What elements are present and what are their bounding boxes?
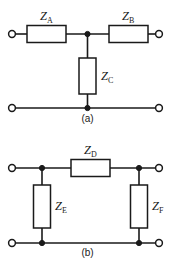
circuit-a-terminal-in-bottom[interactable] — [9, 105, 16, 112]
component-za-box — [27, 26, 66, 43]
label-zd-subscript: D — [91, 150, 97, 159]
component-ze-box — [34, 185, 51, 228]
circuit-b-node-bottom-right — [136, 240, 141, 245]
circuit-a-terminal-out-bottom[interactable] — [156, 105, 163, 112]
circuit-b-node-top-left — [39, 165, 44, 170]
circuit-b-terminal-in-top[interactable] — [9, 165, 16, 172]
circuit-a-terminal-out-top[interactable] — [156, 31, 163, 38]
label-ze-subscript: E — [62, 206, 67, 215]
circuit-a-node-top-mid — [85, 31, 90, 36]
circuit-b-terminal-out-bottom[interactable] — [156, 240, 163, 247]
circuit-a: ZA ZB ZC (a) — [9, 9, 163, 124]
circuit-a-node-bottom-mid — [85, 105, 90, 110]
label-zf-subscript: F — [159, 206, 164, 215]
circuit-b-terminal-in-bottom[interactable] — [9, 240, 16, 247]
label-za: ZA — [40, 9, 53, 25]
circuit-b-node-top-right — [136, 165, 141, 170]
circuit-b: ZD ZE ZF (b) — [9, 143, 164, 258]
label-zd: ZD — [84, 143, 97, 159]
label-zb: ZB — [122, 9, 134, 25]
circuit-b-terminal-out-top[interactable] — [156, 165, 163, 172]
label-za-subscript: A — [47, 16, 53, 25]
label-zf: ZF — [152, 199, 164, 215]
circuit-b-node-bottom-left — [39, 240, 44, 245]
circuit-a-terminal-in-top[interactable] — [9, 31, 16, 38]
label-zb-subscript: B — [129, 16, 134, 25]
circuit-b-caption: (b) — [81, 247, 93, 258]
label-zc-subscript: C — [108, 76, 113, 85]
circuit-svg: ZA ZB ZC (a) — [0, 0, 180, 270]
label-ze: ZE — [55, 199, 67, 215]
circuit-figure: ZA ZB ZC (a) — [0, 0, 180, 270]
component-zf-box — [131, 185, 148, 228]
label-zc: ZC — [101, 69, 113, 85]
component-zc-box — [79, 58, 96, 94]
component-zb-box — [109, 26, 148, 43]
component-zd-box — [71, 160, 110, 177]
circuit-a-caption: (a) — [81, 113, 93, 124]
